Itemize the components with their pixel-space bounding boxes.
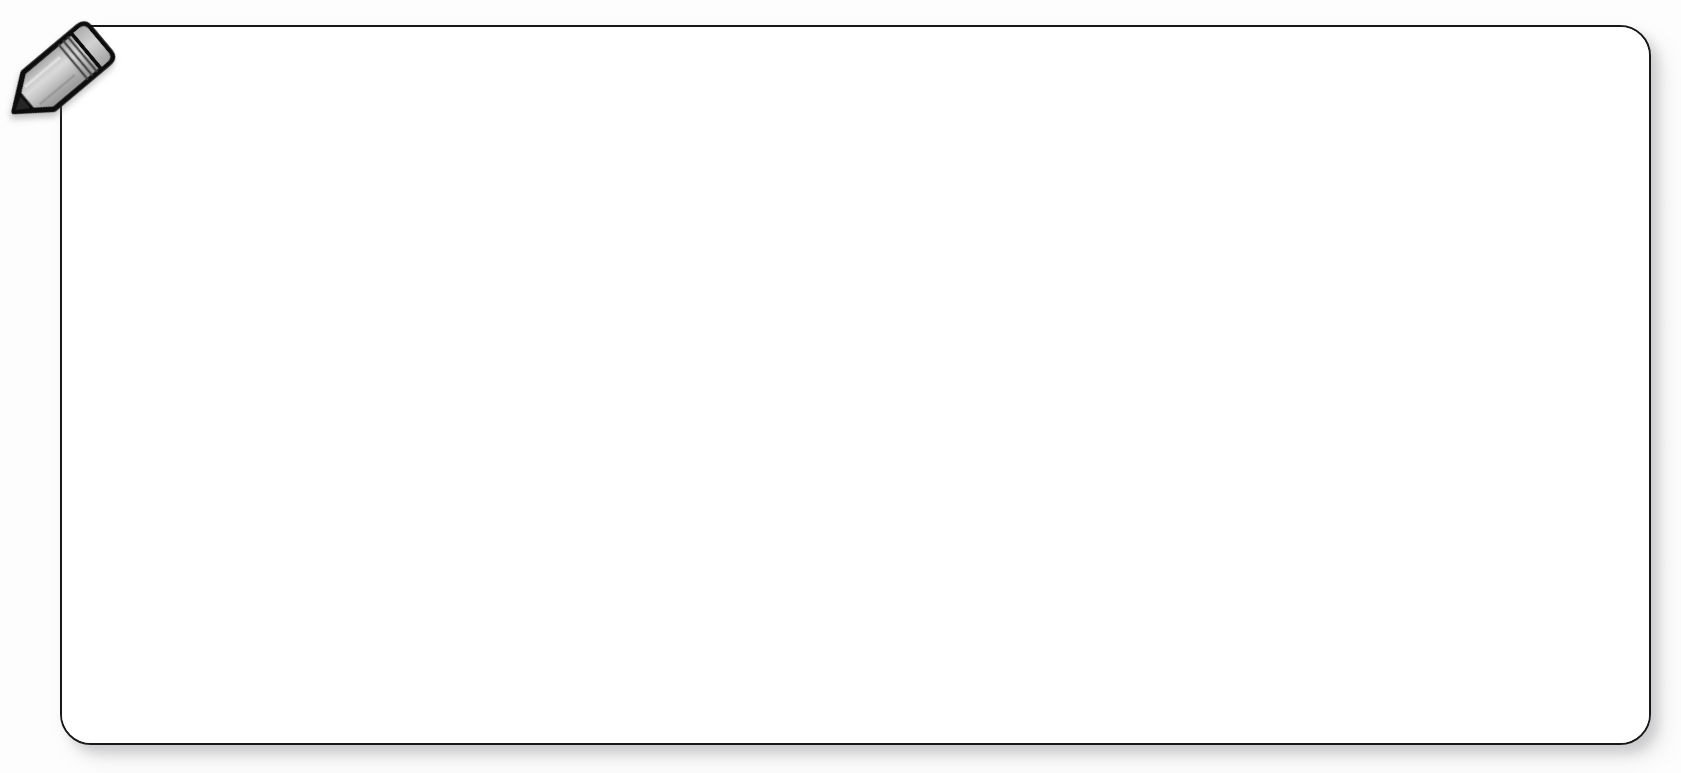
note-placeholder-text (62, 27, 1649, 743)
pencil-icon-graphic (2, 14, 112, 139)
pencil-icon[interactable] (2, 14, 112, 139)
screen-root (0, 0, 1681, 773)
note-canvas-panel[interactable] (60, 25, 1651, 745)
note-drawing-surface[interactable] (62, 27, 1649, 743)
